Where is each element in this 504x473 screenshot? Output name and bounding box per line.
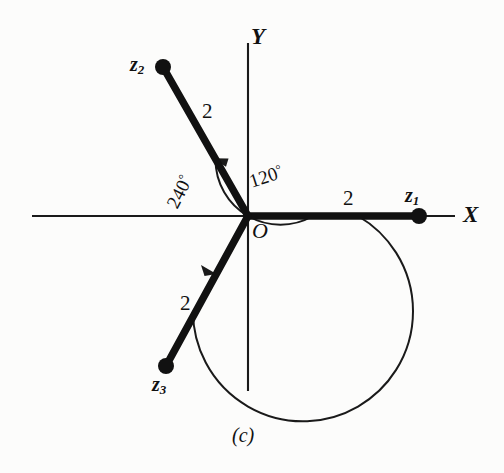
point-label-z3-base: z <box>152 373 160 395</box>
figure-caption: (c) <box>232 424 254 447</box>
angle-arc-240 <box>193 216 413 421</box>
point-dot-z2 <box>155 59 171 75</box>
point-label-z3: z3 <box>152 373 166 398</box>
argand-diagram-figure: X Y O z1 z2 z3 2 2 2 120° 240° (c) <box>0 0 504 473</box>
point-label-z1-subscript: 1 <box>413 193 420 208</box>
point-label-z1: z1 <box>405 184 419 209</box>
point-label-z1-base: z <box>405 184 413 206</box>
point-dot-z1 <box>411 208 427 224</box>
point-label-z2-subscript: 2 <box>138 62 145 77</box>
magnitude-label-z3: 2 <box>180 291 191 316</box>
magnitude-label-z1: 2 <box>343 186 354 211</box>
y-axis-label: Y <box>251 24 265 50</box>
x-axis-label: X <box>463 202 478 228</box>
point-label-z2-base: z <box>130 53 138 75</box>
point-label-z2: z2 <box>130 53 144 78</box>
point-dot-z3 <box>158 358 174 374</box>
point-label-z3-subscript: 3 <box>160 382 167 397</box>
magnitude-label-z2: 2 <box>202 99 213 124</box>
origin-label: O <box>252 218 268 244</box>
vector-z3 <box>166 216 248 366</box>
